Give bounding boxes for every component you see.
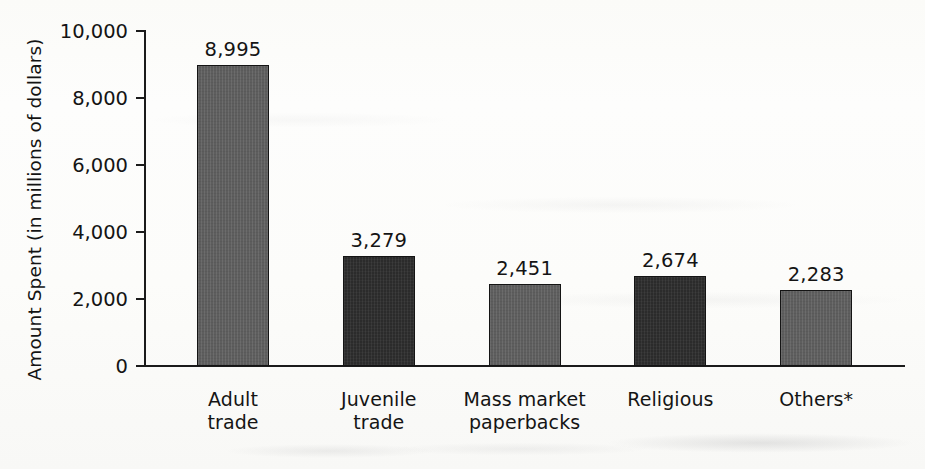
y-axis-tick-label: 10,000	[0, 20, 128, 43]
y-axis-tick-label: 8,000	[0, 87, 128, 110]
category-label-line1: Mass market	[443, 388, 607, 411]
y-axis-tick	[136, 298, 145, 300]
y-axis-tick	[136, 164, 145, 166]
y-axis-tick-label: 4,000	[0, 221, 128, 244]
bar	[197, 65, 269, 366]
bar	[634, 276, 706, 366]
bar	[780, 290, 852, 366]
category-label-line1: Juvenile	[297, 388, 461, 411]
y-axis-tick-label: 6,000	[0, 154, 128, 177]
x-axis-category-label: Religious	[588, 388, 752, 411]
bar	[343, 256, 415, 366]
y-axis-tick	[136, 30, 145, 32]
y-axis-line	[144, 30, 146, 367]
bar-chart-figure: Amount Spent (in millions of dollars) 02…	[0, 0, 925, 469]
y-axis-tick	[136, 97, 145, 99]
bar-value-label: 8,995	[167, 38, 299, 61]
x-axis-category-label: Mass marketpaperbacks	[443, 388, 607, 434]
category-label-line2: trade	[297, 411, 461, 434]
y-axis-tick-label: 0	[0, 355, 128, 378]
category-label-line1: Adult	[151, 388, 315, 411]
bar-value-label: 3,279	[313, 229, 445, 252]
bar-value-label: 2,283	[750, 263, 882, 286]
bar	[489, 284, 561, 366]
category-label-line2: trade	[151, 411, 315, 434]
x-axis-category-label: Adulttrade	[151, 388, 315, 434]
category-label-line1: Others*	[734, 388, 898, 411]
y-axis-tick	[136, 231, 145, 233]
category-label-line1: Religious	[588, 388, 752, 411]
bar-value-label: 2,451	[459, 257, 591, 280]
x-axis-category-label: Juveniletrade	[297, 388, 461, 434]
x-axis-category-label: Others*	[734, 388, 898, 411]
y-axis-tick-label: 2,000	[0, 288, 128, 311]
category-label-line2: paperbacks	[443, 411, 607, 434]
bar-value-label: 2,674	[604, 249, 736, 272]
y-axis-tick	[136, 365, 145, 367]
